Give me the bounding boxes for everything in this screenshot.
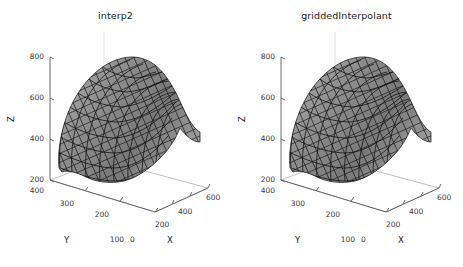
surface-mesh-left — [40, 45, 220, 195]
axes-panel-interp2: interp2 — [0, 0, 231, 267]
xtick-left-0: 0 — [130, 235, 135, 244]
ytick-left-2: 200 — [83, 210, 109, 219]
surface-mesh-right — [271, 45, 451, 195]
ztick-left-2: 400 — [18, 134, 44, 143]
xtick-right-2: 400 — [409, 207, 423, 216]
ztick-right-2: 400 — [249, 134, 275, 143]
ytick-right-3: 100 — [329, 235, 355, 244]
ztick-right-1: 600 — [249, 93, 275, 102]
xtick-left-3: 600 — [206, 193, 220, 202]
ytick-left-0: 400 — [18, 186, 44, 195]
ztick-left-3: 200 — [18, 175, 44, 184]
axis-z-line-left — [50, 57, 54, 182]
axis-z-line-right — [281, 57, 285, 182]
ztick-right-3: 200 — [249, 175, 275, 184]
xtick-left-2: 400 — [178, 207, 192, 216]
ztick-left-1: 600 — [18, 93, 44, 102]
axis-label-y-left: Y — [64, 235, 69, 245]
xtick-right-0: 0 — [361, 235, 366, 244]
axis-label-z-left: Z — [6, 116, 16, 122]
xtick-right-3: 600 — [437, 193, 451, 202]
xtick-left-1: 200 — [155, 220, 169, 229]
axis-label-y-right: Y — [295, 235, 300, 245]
axes-panel-griddedinterpolant: griddedInterpolant — [231, 0, 462, 267]
surface-plot-figure: interp2 — [0, 0, 463, 267]
ytick-right-1: 300 — [279, 199, 305, 208]
ytick-left-3: 100 — [98, 235, 124, 244]
ztick-left-0: 800 — [18, 52, 44, 61]
ytick-right-0: 400 — [249, 186, 275, 195]
ytick-right-2: 200 — [314, 210, 340, 219]
ytick-left-1: 300 — [48, 199, 74, 208]
axis-label-x-left: X — [167, 235, 173, 245]
ztick-right-0: 800 — [249, 52, 275, 61]
xtick-right-1: 200 — [386, 220, 400, 229]
axis-label-x-right: X — [398, 235, 404, 245]
axis-label-z-right: Z — [237, 116, 247, 122]
